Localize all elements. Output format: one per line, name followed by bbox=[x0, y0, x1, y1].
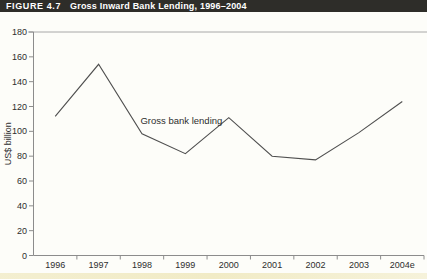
y-tick-label: 120 bbox=[12, 102, 27, 112]
y-axis-title: US$ billion bbox=[3, 122, 13, 165]
x-tick-label: 2002 bbox=[306, 260, 326, 270]
y-tick-label: 20 bbox=[17, 226, 27, 236]
y-tick-label: 60 bbox=[17, 176, 27, 186]
y-tick-label: 140 bbox=[12, 77, 27, 87]
line-chart: 0204060801001201401601801996199719981999… bbox=[0, 0, 427, 279]
y-tick-label: 80 bbox=[17, 151, 27, 161]
x-tick-label: 1998 bbox=[132, 260, 152, 270]
page-edge-strip bbox=[0, 273, 427, 279]
y-tick-label: 40 bbox=[17, 201, 27, 211]
x-tick-label: 2004e bbox=[390, 260, 415, 270]
y-tick-label: 180 bbox=[12, 27, 27, 37]
x-tick-label: 2001 bbox=[262, 260, 282, 270]
figure-panel: FIGURE 4.7 Gross Inward Bank Lending, 19… bbox=[0, 0, 427, 279]
y-tick-label: 0 bbox=[22, 251, 27, 261]
y-tick-label: 100 bbox=[12, 126, 27, 136]
series-line bbox=[55, 64, 402, 160]
y-tick-label: 160 bbox=[12, 52, 27, 62]
x-tick-label: 2000 bbox=[219, 260, 239, 270]
x-tick-label: 2003 bbox=[349, 260, 369, 270]
x-tick-label: 1999 bbox=[175, 260, 195, 270]
series-annotation: Gross bank lending bbox=[140, 115, 222, 126]
x-tick-label: 1997 bbox=[89, 260, 109, 270]
x-tick-label: 1996 bbox=[45, 260, 65, 270]
